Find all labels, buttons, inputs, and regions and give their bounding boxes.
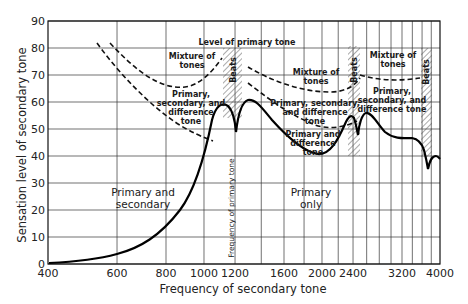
mixture-label-left-1: Mixture of [169, 52, 216, 61]
beats-label-3: Beats [422, 59, 431, 85]
y-axis-label: Sensation level of secondary tone [15, 47, 29, 242]
psd-label-right-1: Primary, [373, 87, 411, 96]
mixture-label-right-2: tones [380, 60, 405, 69]
x-tick-label: 2000 [308, 267, 336, 280]
psd-label-mid-2: and difference [282, 108, 348, 117]
psd-label-left-1: Primary, [172, 90, 210, 99]
beats-label-2: Beats [350, 57, 359, 83]
y-tick-label: 10 [31, 231, 45, 244]
frequency-of-primary-tone-label: Frequency of primary tone [227, 158, 236, 258]
x-tick-label: 1000 [190, 267, 218, 280]
x-tick-label: 800 [156, 267, 177, 280]
threshold-curve [49, 100, 440, 263]
masking-chart: 0102030405060708090 40060080010001200160… [0, 0, 468, 304]
psd-label-left-2: secondary, and [157, 99, 226, 108]
x-tick-label: 400 [38, 267, 59, 280]
primary-only-label-1: Primary [291, 186, 332, 198]
x-axis-ticks: 4006008001000120016002000240032004000 [38, 267, 455, 280]
x-axis-label: Frequency of secondary tone [160, 282, 327, 296]
x-tick-label: 1200 [221, 267, 249, 280]
mixture-label-mid-2: tones [303, 77, 328, 86]
y-tick-label: 70 [31, 69, 45, 82]
y-tick-label: 30 [31, 177, 45, 190]
psd-label-mid-1: Primary, secondary, [270, 99, 359, 108]
x-tick-label: 4000 [426, 267, 454, 280]
beats-label-1: Beats [229, 57, 238, 83]
y-axis-ticks: 0102030405060708090 [31, 15, 45, 271]
mixture-label-left-2: tones [179, 61, 204, 70]
y-tick-label: 50 [31, 123, 45, 136]
psd-label-left-4: tone [181, 117, 202, 126]
pd-label-1: Primary and [285, 130, 340, 139]
y-tick-label: 20 [31, 204, 45, 217]
x-tick-label: 3200 [388, 267, 416, 280]
pd-label-3: tone [303, 148, 324, 157]
primary-and-secondary-label-1: Primary and [111, 186, 175, 198]
psd-label-left-3: difference [168, 108, 214, 117]
mixture-label-mid-1: Mixture of [293, 68, 340, 77]
psd-label-mid-3: tone [305, 117, 326, 126]
x-tick-label: 600 [107, 267, 128, 280]
level-of-primary-tone-label: Level of primary tone [199, 38, 297, 47]
x-tick-label: 1600 [270, 267, 298, 280]
primary-and-secondary-label-2: secondary [116, 198, 170, 210]
y-tick-label: 60 [31, 96, 45, 109]
pd-label-2: difference [290, 139, 336, 148]
primary-only-label-2: only [300, 198, 322, 210]
mixture-label-right-1: Mixture of [370, 51, 417, 60]
y-tick-label: 90 [31, 15, 45, 28]
psd-label-right-3: difference tone [358, 105, 427, 114]
y-tick-label: 80 [31, 42, 45, 55]
psd-label-right-2: secondary, and [358, 96, 427, 105]
y-tick-label: 40 [31, 150, 45, 163]
x-tick-label: 2400 [339, 267, 367, 280]
